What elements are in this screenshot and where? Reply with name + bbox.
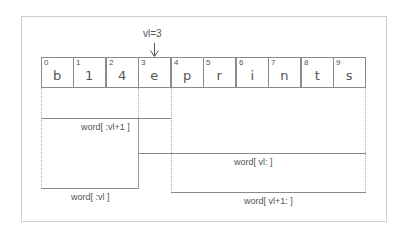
array-cell: 9 s <box>333 57 366 88</box>
cell-char: t <box>302 68 333 83</box>
array-cell: 0 b <box>41 57 74 88</box>
slice-upto-vl-plus-1-label: word[ :vl+1 ] <box>81 122 130 132</box>
array-cell: 5 r <box>203 57 236 88</box>
cell-index: 1 <box>76 58 80 67</box>
slice-right-edge <box>365 88 366 193</box>
slice-from-vl-line <box>138 153 366 154</box>
slice-left-edge <box>41 88 42 189</box>
slice-upto-vl-plus-1-line <box>41 118 171 119</box>
cell-index: 9 <box>336 58 340 67</box>
array-cell: 6 i <box>236 57 269 88</box>
slice-divider-vl-upper <box>138 88 139 118</box>
slice-upto-vl-line <box>41 188 139 189</box>
cell-char: b <box>42 68 73 83</box>
cell-char: 1 <box>74 68 105 83</box>
cell-index: 5 <box>206 58 210 67</box>
cell-index: 0 <box>44 58 48 67</box>
array-cell: 7 n <box>268 57 301 88</box>
array-cell: 1 1 <box>73 57 106 88</box>
cell-char: s <box>334 68 365 83</box>
slice-from-vl-label: word[ vl: ] <box>234 157 273 167</box>
array-cell: 3 e <box>138 57 171 88</box>
cell-index: 3 <box>141 58 145 67</box>
cell-char: i <box>237 68 268 83</box>
array-cell: 8 t <box>301 57 334 88</box>
cell-char: e <box>139 68 170 83</box>
cell-char: n <box>269 68 300 83</box>
cell-index: 4 <box>174 58 178 67</box>
pointer-label: vl=3 <box>143 28 162 39</box>
slice-upto-vl-label: word[ :vl ] <box>71 192 110 202</box>
slice-divider-vl-plus-1 <box>171 88 172 193</box>
down-arrow-icon <box>150 50 159 57</box>
slice-from-vl-plus-1-label: word[ vl+1: ] <box>244 196 293 206</box>
cell-index: 6 <box>239 58 243 67</box>
cell-index: 2 <box>109 58 113 67</box>
array-cell: 2 4 <box>106 57 139 88</box>
cell-index: 7 <box>271 58 275 67</box>
cell-char: p <box>172 68 203 83</box>
slice-from-vl-plus-1-line <box>171 192 366 193</box>
array-cell: 4 p <box>171 57 204 88</box>
cell-char: r <box>204 68 235 83</box>
cell-index: 8 <box>304 58 308 67</box>
cell-char: 4 <box>107 68 138 83</box>
